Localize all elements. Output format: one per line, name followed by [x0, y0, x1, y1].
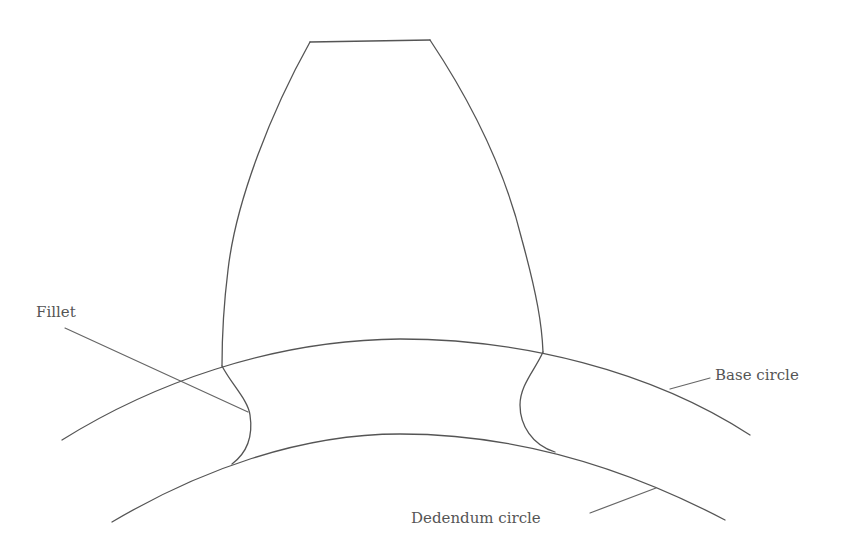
- left-fillet: [222, 366, 251, 464]
- left-flank: [222, 42, 310, 366]
- base-circle-arc: [62, 339, 750, 440]
- tooth-tip: [310, 40, 430, 42]
- right-flank: [430, 40, 543, 352]
- base-circle-label: Base circle: [715, 368, 799, 383]
- fillet-label: Fillet: [36, 305, 76, 320]
- base-circle-leader-line: [670, 378, 710, 389]
- right-fillet: [520, 352, 555, 452]
- dedendum-circle-label: Dedendum circle: [411, 511, 541, 526]
- fillet-leader-line: [65, 328, 248, 412]
- diagram-svg: [0, 0, 846, 551]
- gear-tooth-diagram: Fillet Base circle Dedendum circle: [0, 0, 846, 551]
- dedendum-circle-leader-line: [590, 488, 656, 513]
